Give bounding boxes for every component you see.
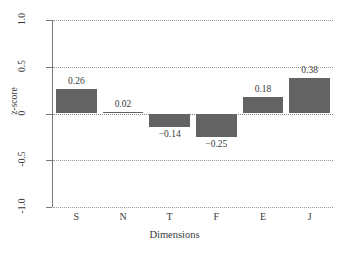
- y-tick-mark: [46, 160, 52, 161]
- bar-n[interactable]: [103, 112, 144, 114]
- x-tick-label-n: N: [103, 211, 143, 222]
- y-tick-label: -1.0: [17, 186, 27, 226]
- y-tick-mark: [46, 114, 52, 115]
- x-tick-label-e: E: [243, 211, 283, 222]
- y-tick-label: 0: [17, 93, 27, 133]
- y-tick-label: 1.0: [17, 0, 27, 39]
- x-tick-label-s: S: [56, 211, 96, 222]
- x-tick-label-f: F: [196, 211, 236, 222]
- plot-area: 0.260.02−0.14−0.250.180.38: [53, 20, 333, 207]
- bar-e[interactable]: [243, 97, 284, 114]
- bar-chart-figure: z-score 1.00.50-0.5-1.0 0.260.02−0.14−0.…: [0, 0, 349, 253]
- gridline: [53, 207, 333, 208]
- bar-t[interactable]: [149, 114, 190, 127]
- x-tick-label-j: J: [290, 211, 330, 222]
- bar-slot: 0.18: [240, 20, 287, 207]
- bar-slot: 0.38: [286, 20, 333, 207]
- bar-f[interactable]: [196, 114, 237, 137]
- y-tick-mark: [46, 20, 52, 21]
- y-tick-label: -0.5: [17, 139, 27, 179]
- bar-slot: 0.26: [53, 20, 100, 207]
- bar-value-label: 0.38: [274, 65, 345, 75]
- x-tick-label-t: T: [150, 211, 190, 222]
- y-tick-mark: [46, 67, 52, 68]
- bar-j[interactable]: [289, 78, 330, 114]
- y-tick-mark: [46, 207, 52, 208]
- x-axis-title: Dimensions: [0, 229, 349, 240]
- bar-slot: 0.02: [100, 20, 147, 207]
- bar-slot: −0.25: [193, 20, 240, 207]
- y-tick-label: 0.5: [17, 46, 27, 86]
- bar-slot: −0.14: [146, 20, 193, 207]
